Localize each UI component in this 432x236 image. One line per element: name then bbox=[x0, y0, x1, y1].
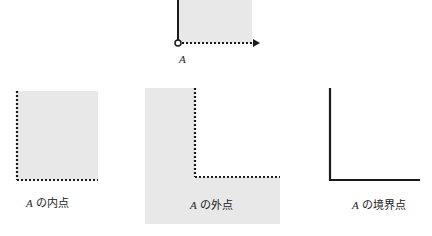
exterior-label: A の外点 bbox=[190, 196, 233, 212]
interior-label: A の内点 bbox=[26, 194, 69, 210]
set-a-figure bbox=[175, 0, 260, 47]
interior-region bbox=[16, 91, 98, 180]
boundary-figure bbox=[330, 88, 420, 180]
set-a-region bbox=[178, 0, 252, 43]
interior-figure bbox=[16, 91, 98, 180]
arrow-head-icon bbox=[253, 39, 260, 47]
boundary-solid-line bbox=[330, 88, 420, 180]
boundary-label: A の境界点 bbox=[352, 196, 406, 212]
set-a-label: A bbox=[179, 53, 186, 66]
open-point-icon bbox=[175, 40, 181, 46]
